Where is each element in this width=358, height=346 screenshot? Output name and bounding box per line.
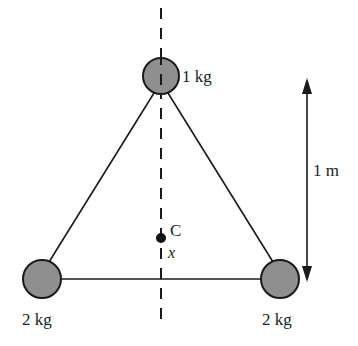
mass-bottom-right xyxy=(261,260,299,298)
triangle-mass-diagram: 1 kg 2 kg 2 kg C x 1 m xyxy=(0,0,358,346)
rod-left xyxy=(49,93,154,262)
arrow-down-icon xyxy=(302,266,312,282)
arrow-up-icon xyxy=(302,78,312,94)
mass-bottom-left-label: 2 kg xyxy=(22,310,52,329)
mass-bottom-right-label: 2 kg xyxy=(262,310,292,329)
mass-top-label: 1 kg xyxy=(182,67,212,86)
center-of-mass-dot xyxy=(156,233,166,243)
center-label: C xyxy=(170,221,181,240)
mass-bottom-left xyxy=(23,260,61,298)
distance-label: x xyxy=(167,244,175,261)
dimension-label: 1 m xyxy=(313,161,339,180)
rod-right xyxy=(168,93,273,262)
diagram-canvas: 1 kg 2 kg 2 kg C x 1 m xyxy=(0,0,358,346)
